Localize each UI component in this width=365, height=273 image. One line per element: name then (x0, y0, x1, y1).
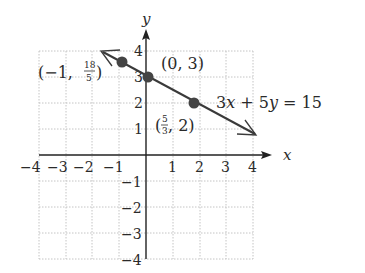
y-tick: 4 (134, 43, 143, 59)
y-tick: 1 (134, 121, 143, 137)
label-text: , 2) (168, 116, 195, 135)
x-tick: −2 (73, 159, 94, 175)
equation-label: 3x + 5y = 15 (216, 93, 322, 112)
label-5over3-2: ( 5 3 , 2) (155, 114, 195, 136)
x-tick: 1 (168, 159, 177, 175)
y-axis-label: y (141, 10, 151, 28)
x-tick: 2 (195, 159, 204, 175)
y-tick: 2 (134, 95, 143, 111)
point-neg1-18over5 (117, 57, 128, 68)
point-5over3-2 (189, 98, 200, 109)
y-tick: −3 (121, 226, 142, 242)
x-tick-labels: −4 −3 −2 −1 1 2 3 4 (20, 159, 257, 175)
y-tick: −2 (121, 200, 142, 216)
x-tick: 3 (221, 159, 230, 175)
x-axis (39, 151, 272, 159)
coordinate-plane: x y −4 −3 −2 −1 1 2 3 4 4 3 2 1 −1 −2 −3… (0, 0, 365, 273)
y-tick: −1 (121, 174, 142, 190)
fraction-numerator: 18 (84, 60, 96, 70)
x-tick: −4 (20, 159, 41, 175)
point-0-3 (143, 72, 154, 83)
fraction-denominator: 5 (86, 73, 92, 83)
label-neg1-18over5: (−1, 18 5 ) (38, 60, 102, 83)
x-axis-label: x (283, 146, 292, 164)
x-tick: −1 (103, 159, 124, 175)
label-0-3: (0, 3) (161, 54, 204, 73)
x-tick: −3 (47, 159, 68, 175)
y-tick: −4 (121, 252, 142, 268)
label-text: (−1, (38, 63, 73, 82)
label-text: ( (155, 116, 161, 135)
x-tick: 4 (248, 159, 257, 175)
y-axis (142, 29, 150, 259)
label-text: ) (96, 63, 102, 82)
